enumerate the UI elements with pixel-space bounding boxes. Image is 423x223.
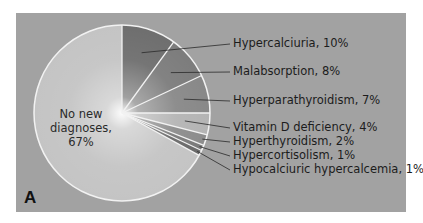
label-hypocalciuric-hypercalcemia: Hypocalciuric hypercalcemia, 1% — [233, 162, 423, 176]
pie-chart: Hypercalciuria, 10% Malabsorption, 8% Hy… — [0, 0, 423, 223]
label-vitamin-d-deficiency: Vitamin D deficiency, 4% — [233, 120, 377, 134]
label-hyperparathyroidism: Hyperparathyroidism, 7% — [233, 93, 380, 107]
label-no-new-diagnoses-line1: No new — [59, 107, 102, 121]
leader-line — [202, 139, 230, 142]
panel-letter-a: A — [24, 188, 36, 207]
label-malabsorption: Malabsorption, 8% — [233, 64, 340, 78]
label-no-new-diagnoses-line3: 67% — [68, 135, 94, 149]
label-no-new-diagnoses-line2: diagnoses, — [50, 121, 112, 135]
label-hypercortisolism: Hypercortisolism, 1% — [233, 148, 355, 162]
label-hyperthyroidism: Hyperthyroidism, 2% — [233, 134, 354, 148]
label-hypercalciuria: Hypercalciuria, 10% — [233, 36, 349, 50]
leader-line — [200, 147, 230, 156]
